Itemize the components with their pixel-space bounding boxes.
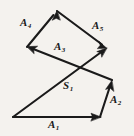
label-a5: A5	[92, 20, 103, 31]
vector-s1-resultant	[13, 48, 107, 117]
label-a3: A3	[54, 41, 65, 52]
label-a2: A2	[110, 94, 121, 105]
label-s1: S1	[63, 80, 73, 91]
label-a1: A1	[48, 119, 59, 130]
label-a4: A4	[20, 17, 31, 28]
vector-polygon-figure: A4 A5 A3 S1 A2 A1	[0, 0, 134, 136]
